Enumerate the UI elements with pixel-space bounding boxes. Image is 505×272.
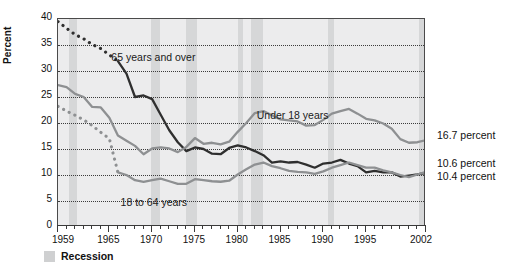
legend-label: Recession (61, 250, 114, 262)
x-tick-major (151, 225, 152, 232)
x-tick-minor (399, 225, 400, 229)
x-tick-minor (416, 225, 417, 229)
x-tick-label: 1959 (52, 234, 74, 245)
x-tick-label: 1970 (140, 234, 162, 245)
y-tick-label: 30 (30, 63, 52, 74)
x-tick-major (425, 225, 426, 232)
x-tick-label: 1980 (226, 234, 248, 245)
x-tick-minor (391, 225, 392, 229)
x-tick-major (194, 225, 195, 232)
x-tick-major (365, 225, 366, 232)
x-tick-minor (254, 225, 255, 229)
recession-swatch (44, 251, 55, 262)
x-tick-minor (177, 225, 178, 229)
series-layer (58, 19, 425, 226)
x-tick-minor (211, 225, 212, 229)
x-tick-minor (228, 225, 229, 229)
plot-area: 65 years and overUnder 18 years18 to 64 … (57, 18, 425, 226)
x-tick-minor (117, 225, 118, 229)
x-tick-minor (83, 225, 84, 229)
series-label: 65 years and over (111, 51, 195, 63)
series-label: 18 to 64 years (121, 196, 188, 208)
x-tick-label: 1965 (97, 234, 119, 245)
y-axis-title: Percent (2, 10, 18, 80)
chart-figure: Percent 65 years and overUnder 18 years1… (0, 0, 505, 272)
end-value-label: 10.4 percent (437, 170, 495, 182)
x-tick-minor (305, 225, 306, 229)
x-tick-minor (185, 225, 186, 229)
x-tick-label: 1985 (268, 234, 290, 245)
x-tick-minor (271, 225, 272, 229)
x-tick-minor (408, 225, 409, 229)
x-tick-minor (314, 225, 315, 229)
y-tick-label: 15 (30, 141, 52, 152)
x-tick-major (108, 225, 109, 232)
y-tick-label: 35 (30, 37, 52, 48)
end-value-label: 16.7 percent (437, 129, 495, 141)
series-label: Under 18 years (257, 109, 329, 121)
x-tick-major (322, 225, 323, 232)
x-tick-minor (100, 225, 101, 229)
x-tick-minor (288, 225, 289, 229)
x-tick-minor (382, 225, 383, 229)
x-axis-line (57, 225, 426, 226)
x-tick-minor (297, 225, 298, 229)
series-line (118, 163, 425, 184)
x-tick-label: 1995 (354, 234, 376, 245)
x-tick-minor (331, 225, 332, 229)
x-tick-minor (74, 225, 75, 229)
x-tick-minor (143, 225, 144, 229)
x-tick-label: 2002 (410, 234, 432, 245)
series-line (58, 85, 425, 154)
x-tick-minor (220, 225, 221, 229)
x-tick-major (237, 225, 238, 232)
x-tick-minor (202, 225, 203, 229)
x-tick-minor (245, 225, 246, 229)
y-tick-label: 0 (30, 219, 52, 230)
x-tick-minor (160, 225, 161, 229)
x-tick-minor (339, 225, 340, 229)
legend-recession: Recession (44, 250, 114, 262)
x-tick-minor (134, 225, 135, 229)
x-tick-minor (125, 225, 126, 229)
x-tick-minor (168, 225, 169, 229)
x-tick-major (57, 225, 58, 232)
x-tick-minor (66, 225, 67, 229)
x-tick-minor (91, 225, 92, 229)
x-tick-label: 1990 (311, 234, 333, 245)
y-tick-label: 20 (30, 115, 52, 126)
series-line (58, 22, 118, 62)
x-tick-label: 1975 (183, 234, 205, 245)
y-tick-label: 40 (30, 11, 52, 22)
x-tick-minor (374, 225, 375, 229)
y-tick-label: 5 (30, 193, 52, 204)
end-value-label: 10.6 percent (437, 157, 495, 169)
x-tick-minor (357, 225, 358, 229)
x-tick-minor (262, 225, 263, 229)
y-tick-label: 10 (30, 167, 52, 178)
x-tick-minor (348, 225, 349, 229)
y-tick-label: 25 (30, 89, 52, 100)
x-tick-major (280, 225, 281, 232)
